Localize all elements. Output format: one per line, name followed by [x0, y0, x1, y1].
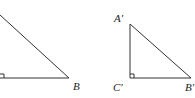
right-angle-marker-right	[130, 74, 134, 78]
triangle-left	[0, 15, 69, 78]
side-a-b	[130, 24, 191, 78]
triangles-diagram: B A′ C′ B′	[0, 0, 195, 98]
label-b-prime: B′	[185, 81, 195, 93]
right-angle-marker-left	[0, 74, 4, 78]
hypotenuse-left	[0, 15, 69, 78]
label-b: B	[73, 80, 80, 92]
label-c-prime: C′	[113, 81, 123, 93]
triangle-right	[130, 24, 191, 78]
label-a-prime: A′	[113, 12, 124, 24]
